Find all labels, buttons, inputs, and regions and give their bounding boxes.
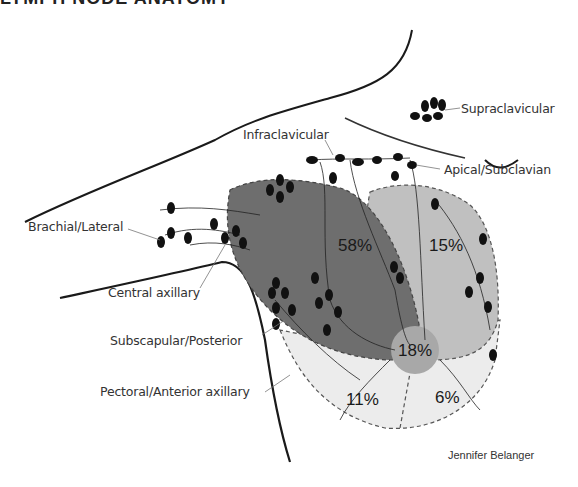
label-brachial-lateral: Brachial/Lateral — [28, 219, 123, 234]
label-supraclavicular: Supraclavicular — [461, 101, 555, 116]
illustrator-credit: Jennifer Belanger — [448, 449, 534, 461]
label-apical-subclavian: Apical/Subclavian — [444, 162, 551, 177]
clavicle-line — [345, 118, 465, 158]
label-subscapular-posterior: Subscapular/Posterior — [110, 333, 242, 348]
label-pectoral-anterior-axillary: Pectoral/Anterior axillary — [100, 384, 250, 399]
pct-upper-outer: 58% — [338, 236, 372, 256]
label-infraclavicular: Infraclavicular — [243, 127, 329, 142]
pct-lower-inner: 6% — [435, 388, 460, 408]
label-central-axillary: Central axillary — [108, 285, 200, 300]
shoulder-outline — [25, 30, 412, 222]
breast-lymph-diagram — [0, 0, 578, 487]
pct-lower-outer: 11% — [346, 390, 379, 410]
pct-central: 18% — [398, 341, 432, 361]
pct-upper-inner: 15% — [429, 236, 463, 256]
